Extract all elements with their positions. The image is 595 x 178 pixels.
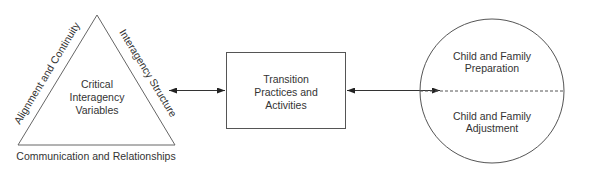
triangle-center-line-1: Critical — [81, 78, 113, 90]
triangle-center-line-2: Interagency — [70, 91, 126, 103]
circle-bottom-line-1: Child and Family — [453, 110, 532, 122]
box-line-2: Practices and — [254, 86, 318, 98]
circle-top-line-1: Child and Family — [453, 50, 532, 62]
box-line-1: Transition — [263, 73, 309, 85]
triangle-right-side-label: Interagency Structure — [117, 27, 179, 119]
triangle-left-side-label: Alignment and Continuity — [11, 19, 82, 126]
triangle-center-line-3: Variables — [76, 104, 119, 116]
box-line-3: Activities — [265, 99, 306, 111]
circle-bottom-line-2: Adjustment — [466, 122, 519, 134]
circle-top-line-2: Preparation — [465, 62, 519, 74]
triangle-base-label: Communication and Relationships — [16, 150, 175, 162]
diagram-canvas: Critical Interagency Variables Alignment… — [0, 0, 595, 178]
